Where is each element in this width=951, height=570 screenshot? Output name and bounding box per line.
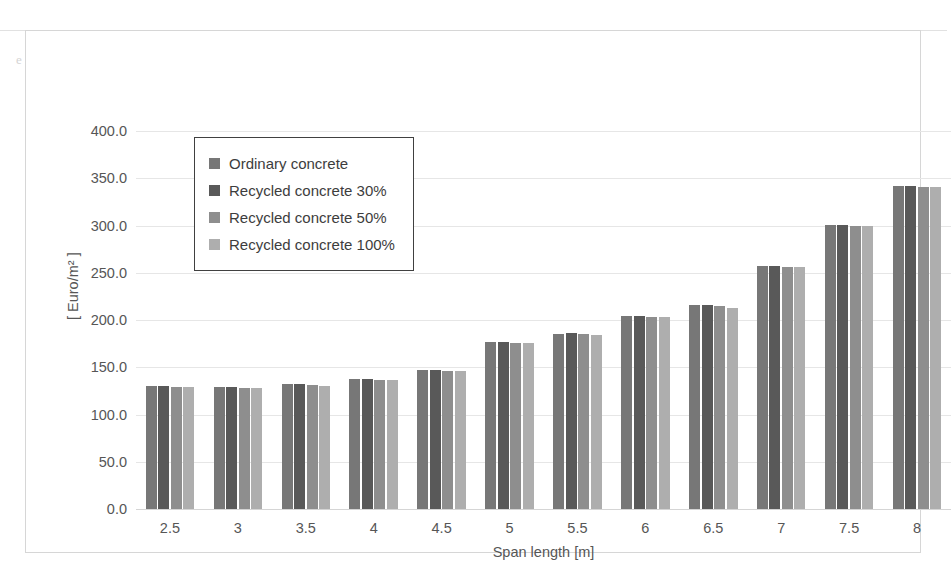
bar-group bbox=[756, 131, 806, 509]
bar bbox=[591, 335, 602, 509]
bar-group bbox=[145, 131, 195, 509]
y-axis-tick-label: 100.0 bbox=[91, 407, 127, 423]
x-axis-tick-label: 3 bbox=[234, 520, 242, 536]
bar-group bbox=[892, 131, 942, 509]
bar bbox=[918, 187, 929, 509]
bar bbox=[523, 343, 534, 509]
bar bbox=[282, 384, 293, 509]
bar bbox=[362, 379, 373, 509]
bar bbox=[417, 370, 428, 509]
bar bbox=[566, 333, 577, 509]
bar bbox=[769, 266, 780, 509]
bar-group bbox=[417, 131, 467, 509]
y-axis-tick-label: 400.0 bbox=[91, 123, 127, 139]
chart-legend: Ordinary concreteRecycled concrete 30%Re… bbox=[194, 137, 414, 271]
bar bbox=[621, 316, 632, 509]
bar bbox=[837, 225, 848, 509]
y-axis-tick-label: 350.0 bbox=[91, 170, 127, 186]
bar bbox=[930, 187, 941, 509]
legend-item: Recycled concrete 50% bbox=[209, 204, 395, 231]
legend-swatch-icon bbox=[209, 239, 220, 250]
legend-swatch-icon bbox=[209, 185, 220, 196]
legend-item: Recycled concrete 30% bbox=[209, 177, 395, 204]
x-axis-label: Span length [m] bbox=[136, 544, 951, 560]
x-axis-tick-label: 6 bbox=[641, 520, 649, 536]
bar-group bbox=[620, 131, 670, 509]
bar bbox=[146, 386, 157, 509]
bar bbox=[158, 386, 169, 509]
legend-label: Recycled concrete 50% bbox=[229, 209, 387, 226]
bar bbox=[374, 380, 385, 509]
bar bbox=[430, 370, 441, 509]
legend-label: Recycled concrete 30% bbox=[229, 182, 387, 199]
y-axis-label: [ Euro/m² ] bbox=[65, 252, 81, 320]
bar bbox=[307, 385, 318, 509]
legend-item: Recycled concrete 100% bbox=[209, 231, 395, 258]
legend-swatch-icon bbox=[209, 158, 220, 169]
bar bbox=[226, 387, 237, 509]
bar bbox=[485, 342, 496, 509]
bar bbox=[825, 225, 836, 509]
x-axis-tick-label: 8 bbox=[913, 520, 921, 536]
bar-group bbox=[485, 131, 535, 509]
bar bbox=[634, 316, 645, 509]
bar bbox=[387, 380, 398, 509]
y-axis-tick-label: 300.0 bbox=[91, 218, 127, 234]
bar-group bbox=[688, 131, 738, 509]
x-axis-tick-label: 2.5 bbox=[160, 520, 180, 536]
bar bbox=[578, 334, 589, 509]
bar bbox=[455, 371, 466, 509]
bar bbox=[498, 342, 509, 509]
bar bbox=[319, 386, 330, 509]
bar bbox=[850, 226, 861, 510]
bar bbox=[239, 388, 250, 509]
chart-frame: [ Euro/m² ] 0.050.0100.0150.0200.0250.03… bbox=[25, 30, 921, 553]
x-axis-tick-label: 3.5 bbox=[296, 520, 316, 536]
bar bbox=[727, 308, 738, 509]
bar bbox=[171, 387, 182, 509]
bar bbox=[893, 186, 904, 509]
bar bbox=[294, 384, 305, 509]
bar bbox=[782, 267, 793, 509]
bar bbox=[905, 186, 916, 509]
bar bbox=[757, 266, 768, 509]
legend-label: Ordinary concrete bbox=[229, 155, 348, 172]
y-axis-tick-label: 150.0 bbox=[91, 359, 127, 375]
x-axis-tick-label: 5.5 bbox=[567, 520, 587, 536]
bar bbox=[214, 387, 225, 509]
bar bbox=[794, 267, 805, 509]
y-axis-tick-label: 200.0 bbox=[91, 312, 127, 328]
y-axis-tick-label: 0.0 bbox=[107, 501, 127, 517]
bar bbox=[659, 317, 670, 509]
bar bbox=[183, 387, 194, 509]
x-axis-tick-label: 7 bbox=[777, 520, 785, 536]
bar bbox=[349, 379, 360, 509]
bar bbox=[646, 317, 657, 509]
bar bbox=[714, 306, 725, 509]
x-axis-tick-label: 5 bbox=[505, 520, 513, 536]
bar bbox=[553, 334, 564, 509]
y-axis-tick-label: 250.0 bbox=[91, 265, 127, 281]
bar bbox=[862, 226, 873, 509]
legend-label: Recycled concrete 100% bbox=[229, 236, 395, 253]
bar bbox=[251, 388, 262, 509]
bar bbox=[442, 371, 453, 509]
legend-item: Ordinary concrete bbox=[209, 150, 395, 177]
gridline bbox=[136, 509, 951, 510]
bar bbox=[510, 343, 521, 509]
bar bbox=[689, 305, 700, 509]
x-axis-tick-label: 4 bbox=[370, 520, 378, 536]
y-axis-tick-label: 50.0 bbox=[99, 454, 127, 470]
bar-group bbox=[824, 131, 874, 509]
x-axis-tick-label: 4.5 bbox=[432, 520, 452, 536]
legend-swatch-icon bbox=[209, 212, 220, 223]
x-axis-tick-label: 6.5 bbox=[703, 520, 723, 536]
x-axis-tick-label: 7.5 bbox=[839, 520, 859, 536]
bar bbox=[702, 305, 713, 509]
bar-group bbox=[552, 131, 602, 509]
